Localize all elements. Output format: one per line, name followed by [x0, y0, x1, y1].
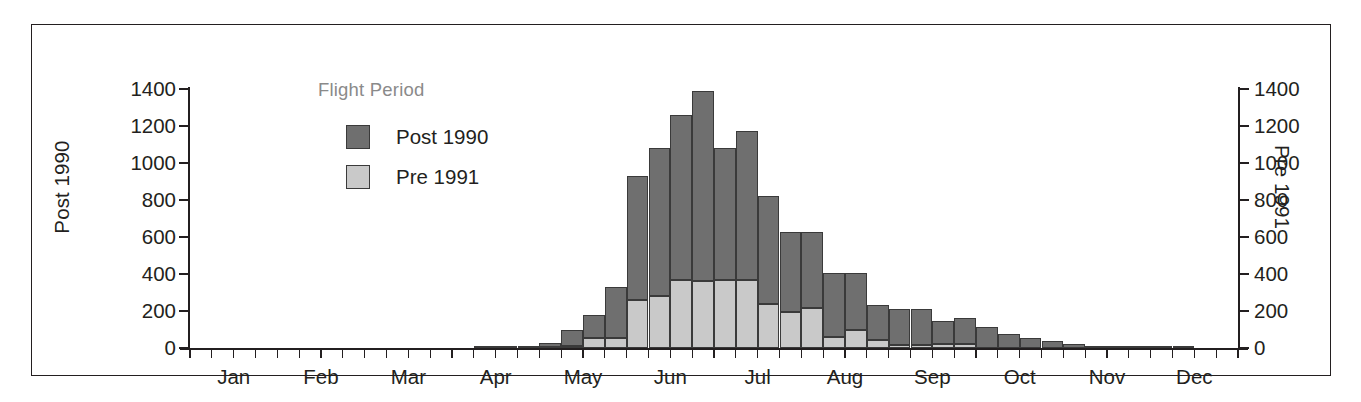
bar-group[interactable] — [1085, 346, 1107, 348]
bar-group[interactable] — [823, 273, 845, 348]
y-axis-label-right: 400 — [1254, 264, 1288, 285]
x-tick — [517, 349, 518, 358]
bar-group[interactable] — [561, 330, 583, 349]
y-tick-left — [179, 273, 188, 275]
bar-group[interactable] — [670, 115, 692, 348]
y-tick-right — [1240, 88, 1249, 90]
y-axis-label-right: 800 — [1254, 190, 1288, 211]
bar-group[interactable] — [1063, 344, 1085, 348]
y-tick-left — [179, 236, 188, 238]
x-tick — [364, 349, 365, 358]
bar-group[interactable] — [518, 347, 540, 348]
x-tick — [866, 349, 867, 358]
y-axis-label-left: 0 — [165, 338, 176, 359]
bar-group[interactable] — [649, 148, 671, 348]
x-tick — [189, 349, 190, 358]
x-tick — [1128, 349, 1129, 358]
bar-group[interactable] — [758, 196, 780, 348]
x-tick — [1216, 349, 1217, 358]
bar-group[interactable] — [889, 309, 911, 348]
y-tick-right — [1240, 236, 1249, 238]
bar-segment-post-1990 — [780, 232, 802, 312]
bar-group[interactable] — [692, 91, 714, 348]
bar-group[interactable] — [496, 347, 518, 348]
bar-group[interactable] — [780, 232, 802, 348]
bar-segment-post-1990 — [801, 232, 823, 308]
y-axis-label-right: 200 — [1254, 301, 1288, 322]
bar-segment-post-1990 — [954, 318, 976, 344]
bar-segment-post-1990 — [583, 315, 605, 338]
left-axis-title: Post 1990 — [50, 117, 74, 257]
x-tick — [932, 349, 933, 358]
bar-group[interactable] — [867, 305, 889, 348]
bar-segment-pre-1991 — [932, 344, 954, 348]
y-axis-label-left: 400 — [142, 264, 176, 285]
bar-segment-post-1990 — [911, 309, 933, 345]
x-tick — [1063, 349, 1064, 358]
y-tick-right — [1240, 125, 1249, 127]
x-tick — [692, 349, 693, 358]
bar-group[interactable] — [1107, 347, 1129, 348]
x-tick — [408, 349, 409, 358]
bar-segment-pre-1991 — [758, 304, 780, 348]
bar-group[interactable] — [954, 318, 976, 348]
x-tick — [757, 349, 758, 358]
x-axis-month-label: Dec — [1144, 365, 1244, 389]
bar-group[interactable] — [1020, 338, 1042, 348]
y-axis-label-left: 1200 — [130, 116, 176, 137]
bar-group[interactable] — [845, 273, 867, 348]
bar-segment-post-1990 — [823, 273, 845, 337]
bar-segment-post-1990 — [714, 148, 736, 280]
bar-group[interactable] — [976, 327, 998, 348]
y-tick-right — [1240, 273, 1249, 275]
bar-group[interactable] — [1129, 347, 1151, 348]
bar-segment-post-1990 — [976, 327, 998, 348]
bar-segment-post-1990 — [1129, 346, 1151, 348]
bar-group[interactable] — [714, 148, 736, 348]
bar-segment-post-1990 — [496, 346, 518, 348]
bar-segment-pre-1991 — [867, 340, 889, 348]
bar-segment-post-1990 — [1042, 341, 1064, 348]
x-axis-month-label: Oct — [970, 365, 1070, 389]
bar-segment-pre-1991 — [714, 280, 736, 348]
bar-group[interactable] — [932, 321, 954, 348]
x-tick — [211, 349, 212, 358]
x-tick — [954, 349, 955, 358]
x-tick — [1194, 349, 1195, 358]
bar-segment-pre-1991 — [583, 338, 605, 348]
bar-segment-pre-1991 — [780, 312, 802, 348]
x-tick — [670, 349, 671, 358]
bar-segment-post-1990 — [889, 309, 911, 345]
bar-group[interactable] — [1042, 341, 1064, 348]
x-axis-month-label: Sep — [882, 365, 982, 389]
y-tick-left — [179, 88, 188, 90]
bar-group[interactable] — [605, 287, 627, 348]
bar-group[interactable] — [911, 309, 933, 348]
bar-group[interactable] — [801, 232, 823, 348]
bar-segment-post-1990 — [474, 346, 496, 348]
bar-group[interactable] — [736, 131, 758, 348]
y-tick-left — [179, 199, 188, 201]
bar-segment-post-1990 — [627, 176, 649, 300]
bar-segment-pre-1991 — [670, 280, 692, 348]
bar-group[interactable] — [627, 176, 649, 348]
y-tick-left — [179, 162, 188, 164]
bar-segment-post-1990 — [1151, 346, 1173, 348]
x-tick — [451, 349, 452, 358]
bar-segment-post-1990 — [845, 273, 867, 330]
x-tick — [386, 349, 387, 358]
bar-group[interactable] — [998, 334, 1020, 348]
bar-segment-post-1990 — [932, 321, 954, 344]
bar-group[interactable] — [583, 315, 605, 348]
y-tick-left — [179, 347, 188, 349]
y-axis-label-left: 600 — [142, 227, 176, 248]
y-axis-label-right: 600 — [1254, 227, 1288, 248]
bar-group[interactable] — [539, 343, 561, 348]
x-tick — [299, 349, 300, 358]
y-axis-label-right: 1200 — [1254, 116, 1300, 137]
y-axis-label-left: 1000 — [130, 153, 176, 174]
bar-segment-pre-1991 — [845, 330, 867, 348]
bar-segment-post-1990 — [867, 305, 889, 340]
x-tick — [539, 349, 540, 358]
bar-segment-pre-1991 — [889, 345, 911, 348]
